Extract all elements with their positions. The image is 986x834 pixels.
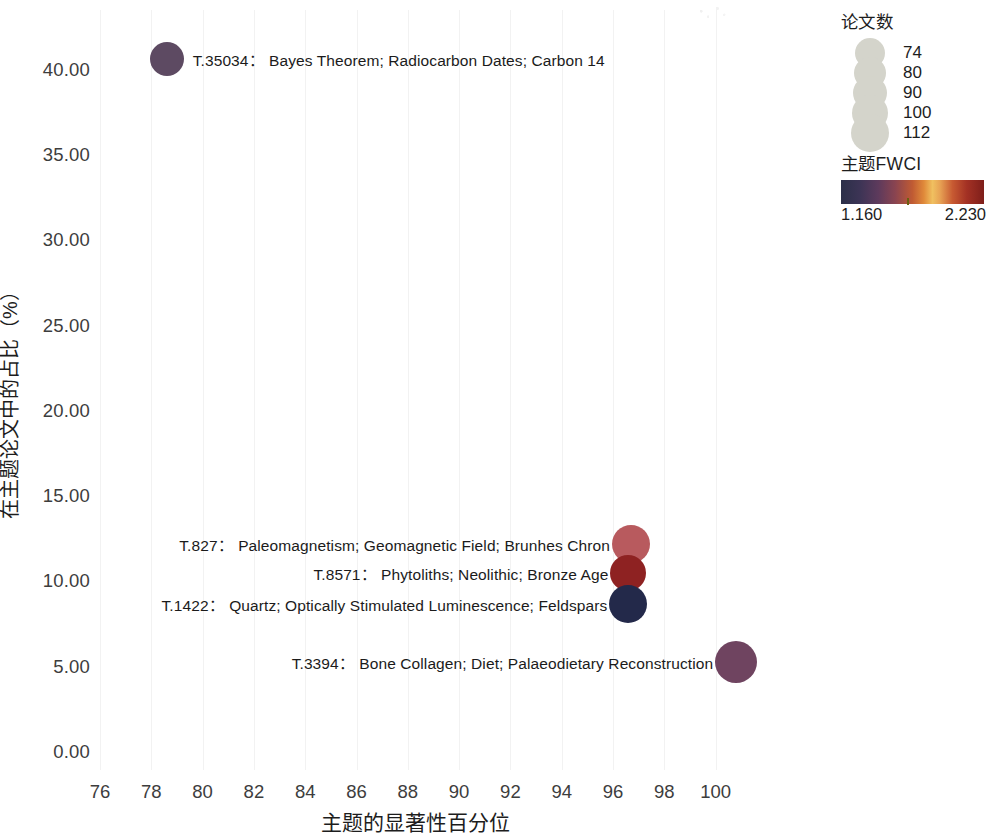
color-legend: 主题FWCI 1.160 2.230: [841, 150, 984, 227]
x-tick-label: 84: [295, 781, 316, 803]
gridline-vertical: [151, 10, 152, 770]
y-tick-label: 0.00: [53, 741, 90, 763]
size-legend-swatches: 748090100112: [841, 39, 984, 143]
data-point-label: T.1422： Quartz; Optically Stimulated Lum…: [162, 593, 608, 615]
x-tick-label: 94: [551, 781, 572, 803]
x-tick-label: 98: [654, 781, 675, 803]
data-bubble[interactable]: [150, 42, 184, 76]
x-tick-label: 82: [244, 781, 265, 803]
size-legend-label: 74: [903, 43, 922, 63]
colorbar-max-label: 2.230: [945, 205, 986, 224]
x-tick-label: 86: [346, 781, 367, 803]
x-tick-label: 88: [398, 781, 419, 803]
y-tick-label: 35.00: [43, 144, 90, 166]
x-axis-title: 主题的显著性百分位: [0, 806, 830, 834]
data-bubble[interactable]: [609, 585, 647, 623]
data-bubble[interactable]: [715, 641, 757, 683]
y-tick-label: 5.00: [53, 656, 90, 678]
size-legend-label: 90: [903, 83, 922, 103]
size-legend: 论文数 748090100112: [841, 8, 984, 143]
size-legend-label: 80: [903, 63, 922, 83]
size-legend-swatch: [851, 114, 889, 152]
y-axis-title: 在主题论文中的占比（%）: [0, 265, 23, 535]
colorbar-min-label: 1.160: [841, 205, 882, 224]
y-tick-label: 20.00: [43, 400, 90, 422]
size-legend-label: 112: [903, 123, 930, 143]
gridline-vertical: [100, 10, 101, 770]
x-tick-label: 76: [90, 781, 111, 803]
data-point-label: T.8571： Phytoliths; Neolithic; Bronze Ag…: [313, 562, 608, 584]
x-tick-label: 96: [603, 781, 624, 803]
y-tick-label: 30.00: [43, 229, 90, 251]
x-tick-label: 90: [449, 781, 470, 803]
size-legend-title: 论文数: [841, 8, 984, 33]
color-legend-title: 主题FWCI: [841, 150, 984, 175]
x-tick-label: 80: [192, 781, 213, 803]
y-tick-label: 25.00: [43, 315, 90, 337]
size-legend-label: 100: [903, 103, 931, 123]
x-tick-label: 92: [500, 781, 521, 803]
data-point-label: T.827： Paleomagnetism; Geomagnetic Field…: [179, 533, 610, 555]
data-point-label: T.35034： Bayes Theorem; Radiocarbon Date…: [193, 48, 605, 70]
gridline-vertical: [254, 10, 255, 770]
y-tick-label: 15.00: [43, 485, 90, 507]
x-tick-label: 78: [141, 781, 162, 803]
x-tick-label: 100: [700, 781, 731, 803]
data-point-label: T.3394： Bone Collagen; Diet; Palaeodieta…: [292, 651, 714, 673]
y-tick-label: 40.00: [43, 59, 90, 81]
gridline-vertical: [203, 10, 204, 770]
colorbar-labels: 1.160 2.230: [841, 205, 984, 227]
y-tick-label: 10.00: [43, 570, 90, 592]
colorbar-tick-mark: [907, 198, 909, 205]
colorbar-gradient: [841, 180, 984, 204]
